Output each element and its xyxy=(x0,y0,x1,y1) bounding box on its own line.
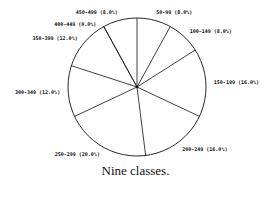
slice-label: 350-399 (12.0%) xyxy=(33,35,78,41)
slice-label: 100-149 (8.0%) xyxy=(190,28,232,34)
slice-label: 400-449 (0.0%) xyxy=(54,21,96,27)
slice-label: 250-299 (20.0%) xyxy=(55,151,100,157)
slice-label: 450-499 (8.0%) xyxy=(76,9,118,15)
slice-label: 200-249 (16.0%) xyxy=(182,146,227,152)
pie-chart: 50-99 (8.0%)100-149 (8.0%)150-199 (16.0%… xyxy=(0,0,271,165)
pie-center-dot xyxy=(136,86,139,89)
slice-label: 150-199 (16.0%) xyxy=(214,79,259,85)
slice-label: 50-99 (8.0%) xyxy=(156,9,192,15)
figure-caption: Nine classes. xyxy=(0,163,271,179)
slice-label: 300-349 (12.0%) xyxy=(15,89,60,95)
